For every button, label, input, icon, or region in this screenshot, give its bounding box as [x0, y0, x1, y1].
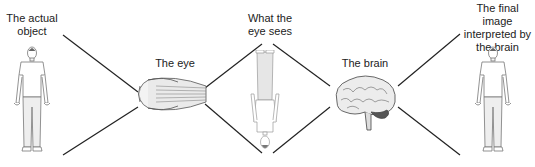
label-line: The actual [2, 12, 62, 25]
label-line: object [2, 25, 62, 38]
inverted-man-icon [248, 50, 282, 154]
eyeball-icon [134, 74, 210, 114]
label-line: The brain [330, 57, 400, 70]
brain-icon [331, 74, 401, 132]
label-actual-object: The actual object [2, 12, 62, 38]
standing-man-icon [473, 45, 513, 153]
label-line: interpreted by [460, 28, 535, 41]
label-line: The final image [460, 2, 535, 28]
label-eye: The eye [145, 57, 205, 70]
standing-man-icon [12, 45, 52, 153]
label-brain: The brain [330, 57, 400, 70]
label-line: eye sees [235, 25, 305, 38]
label-line: What the [235, 12, 305, 25]
label-line: The eye [145, 57, 205, 70]
label-eye-sees: What the eye sees [235, 12, 305, 38]
